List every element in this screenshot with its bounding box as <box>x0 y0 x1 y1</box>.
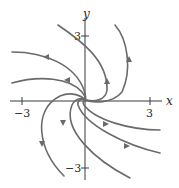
arrow-icon <box>104 78 110 84</box>
x-tick-label-neg3: −3 <box>14 107 30 120</box>
x-axis-label: x <box>166 94 173 108</box>
x-tick-label-pos3: 3 <box>146 107 153 120</box>
arrow-icon <box>43 54 49 60</box>
trajectory-4 <box>12 79 85 100</box>
arrow-icon <box>103 121 109 127</box>
arrow-icon <box>60 120 66 126</box>
y-tick-label-neg3: −3 <box>65 162 81 175</box>
y-axis-label: y <box>82 7 90 21</box>
phase-portrait: y x −3 3 3 −3 <box>0 0 179 188</box>
